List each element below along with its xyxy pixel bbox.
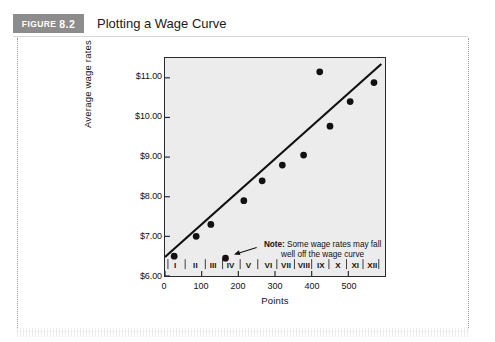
- x-axis-tick-label: 400: [304, 281, 319, 291]
- y-axis-tick-labels: $6.00$7.00$8.00$9.00$10.00$11.00: [96, 50, 162, 284]
- grade-band-label: VI: [264, 261, 272, 270]
- note-bold-prefix: Note:: [264, 240, 285, 249]
- grade-band-label: VII: [281, 261, 291, 270]
- data-point: [171, 253, 178, 260]
- y-axis-tick-label: $7.00: [102, 231, 162, 241]
- data-point: [327, 123, 334, 130]
- y-axis-tick-label: $10.00: [102, 111, 162, 121]
- data-point: [193, 233, 200, 240]
- x-axis-label: Points: [164, 295, 386, 306]
- note-line-1: Note: Some wage rates may fall: [264, 240, 381, 249]
- y-tick-marks: [165, 78, 170, 276]
- figure-tag-number: 8.2: [59, 18, 75, 30]
- header-divider: [13, 36, 468, 37]
- data-point: [207, 221, 214, 228]
- grade-band-label: XII: [367, 261, 377, 270]
- data-point: [316, 69, 323, 76]
- data-point: [300, 152, 307, 159]
- y-axis-label: Average wage rates: [82, 40, 93, 128]
- data-point: [259, 178, 266, 185]
- y-axis-tick-label: $8.00: [102, 191, 162, 201]
- y-axis-tick-label: $6.00: [102, 271, 162, 281]
- trend-line: [165, 64, 381, 257]
- x-axis-tick-label: 500: [341, 281, 356, 291]
- grade-band-label: VIII: [298, 261, 310, 270]
- x-axis-tick-label: 200: [230, 281, 245, 291]
- data-point: [371, 79, 378, 86]
- grade-band-label: X: [335, 261, 340, 270]
- data-point: [279, 162, 286, 169]
- note-annotation: Note: Some wage rates may fall well off …: [264, 240, 381, 261]
- chart: Average wage rates $6.00$7.00$8.00$9.00$…: [96, 50, 396, 320]
- x-axis-tick-label: 300: [267, 281, 282, 291]
- y-axis-tick-label: $11.00: [102, 71, 162, 81]
- note-text-2: well off the wage curve: [281, 250, 364, 259]
- figure-tag: FIGURE 8.2: [13, 14, 84, 33]
- grade-band-label: V: [246, 261, 251, 270]
- y-axis-tick-label: $9.00: [102, 151, 162, 161]
- grade-band-label: IV: [227, 261, 235, 270]
- grade-band-label: IX: [317, 261, 325, 270]
- data-point: [347, 98, 354, 105]
- grade-band-label: XI: [351, 261, 359, 270]
- note-text-1: Some wage rates may fall: [285, 240, 381, 249]
- note-arrow-head: [234, 250, 240, 255]
- data-points: [171, 69, 378, 262]
- figure-page: FIGURE 8.2 Plotting a Wage Curve Average…: [0, 0, 495, 342]
- data-point: [240, 197, 247, 204]
- grade-band-label: II: [193, 261, 198, 270]
- bottom-hatch-band: [17, 328, 469, 337]
- grade-band-label: III: [210, 261, 217, 270]
- x-axis-tick-label: 100: [193, 281, 208, 291]
- x-axis-tick-label: 0: [161, 281, 166, 291]
- figure-header: FIGURE 8.2 Plotting a Wage Curve: [13, 14, 465, 33]
- figure-title: Plotting a Wage Curve: [97, 14, 227, 33]
- grade-band-label: I: [174, 261, 176, 270]
- figure-tag-word: FIGURE: [22, 19, 57, 29]
